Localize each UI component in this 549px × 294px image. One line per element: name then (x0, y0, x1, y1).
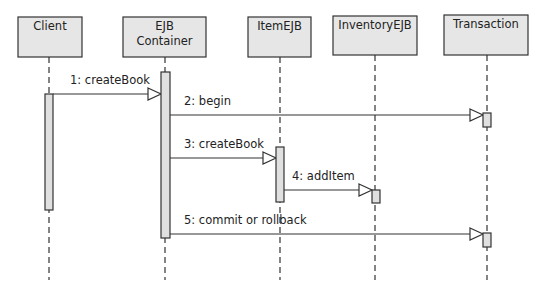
messages: 1: createBook2: begin3: createBook4: add… (53, 73, 483, 240)
message-label: 2: begin (184, 94, 231, 108)
message-3: 3: createBook (170, 137, 276, 164)
participant-container: EJBContainer (123, 17, 206, 57)
message-label: 4: addItem (292, 169, 355, 183)
sequence-diagram: ClientEJBContainerItemEJBInventoryEJBTra… (0, 0, 549, 294)
activation-bar-inventory (372, 190, 380, 203)
participant-item: ItemEJB (248, 17, 311, 57)
message-label: 3: createBook (184, 137, 264, 151)
arrowhead-icon (359, 184, 372, 196)
activation-bar-transaction (483, 233, 491, 247)
arrowhead-icon (470, 109, 483, 121)
activation-bar-transaction (483, 113, 491, 127)
participant-transaction: Transaction (444, 15, 528, 55)
participant-label: EJB (155, 19, 174, 33)
message-5: 5: commit or rollback (170, 213, 483, 240)
message-label: 5: commit or rollback (184, 213, 307, 227)
message-4: 4: addItem (284, 169, 372, 196)
participant-label: Container (136, 34, 192, 48)
arrowhead-icon (263, 152, 276, 164)
activation-bar-client (45, 94, 53, 210)
participant-client: Client (18, 17, 82, 57)
activation-bar-item (276, 147, 284, 202)
participants: ClientEJBContainerItemEJBInventoryEJBTra… (18, 15, 528, 57)
arrowhead-icon (470, 228, 483, 240)
participant-label: Transaction (452, 17, 519, 31)
arrowhead-icon (148, 88, 161, 100)
participant-label: ItemEJB (257, 19, 302, 33)
participant-label: Client (33, 19, 67, 33)
message-2: 2: begin (170, 94, 483, 121)
lifelines (49, 55, 487, 280)
participant-label: InventoryEJB (338, 18, 412, 32)
message-1: 1: createBook (53, 73, 161, 100)
activation-bar-container (161, 72, 170, 238)
participant-inventory: InventoryEJB (333, 16, 417, 55)
message-label: 1: createBook (70, 73, 150, 87)
